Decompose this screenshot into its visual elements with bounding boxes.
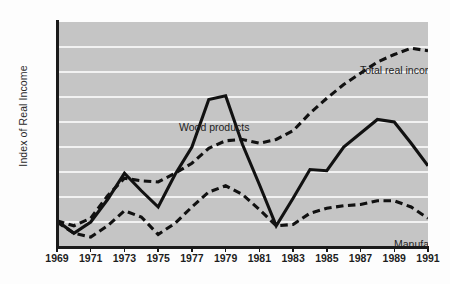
x-axis-tick-mark (259, 247, 261, 252)
x-axis-tick-mark (427, 247, 429, 252)
x-axis-tick-mark (56, 247, 58, 252)
x-axis-tick-label: 1991 (406, 252, 450, 264)
x-axis-tick-mark (191, 247, 193, 252)
x-axis-tick-mark (90, 247, 92, 252)
x-axis-tick-labels: 1969197119731975197719791981198319851987… (0, 0, 450, 284)
x-axis-tick-mark (225, 247, 227, 252)
x-axis-tick-mark (326, 247, 328, 252)
x-axis-tick-mark (157, 247, 159, 252)
x-axis-tick-mark (394, 247, 396, 252)
x-axis-tick-mark (124, 247, 126, 252)
x-axis-tick-mark (360, 247, 362, 252)
chart-container: Index of Real Income 0.91.01.11.21.31.41… (0, 0, 450, 284)
x-axis-tick-mark (292, 247, 294, 252)
